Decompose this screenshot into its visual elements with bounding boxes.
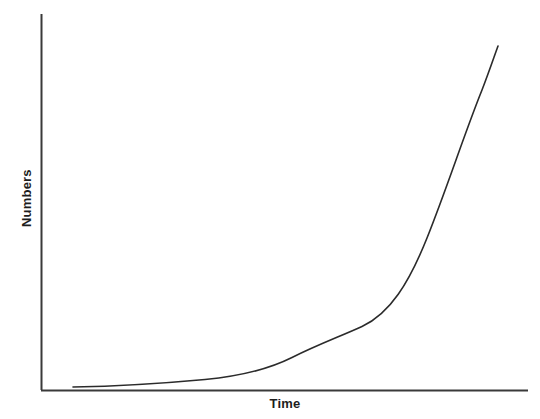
y-axis-label: Numbers [0,173,63,227]
chart-canvas: Numbers Time [0,0,540,419]
data-curve-exponential-growth [73,46,498,387]
exponential-growth-chart [0,0,540,419]
x-axis-label: Time [235,396,335,411]
